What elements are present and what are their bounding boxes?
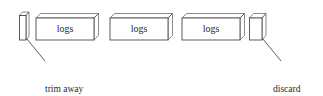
callout-discard-line-1: discard <box>273 84 300 95</box>
selvage-strip-group <box>20 12 30 40</box>
callout-discard-crease: discard crease <box>273 62 300 96</box>
leader-line-trim-away-selvage <box>27 39 46 62</box>
log-block-1-group: logs <box>36 14 99 41</box>
diagram-canvas: logs logs logs trim away selvage <box>0 0 323 96</box>
log-block-1-label: logs <box>57 23 74 34</box>
callout-trim-away-selvage: trim away selvage <box>45 62 83 96</box>
callout-trim-line-1: trim away <box>45 84 83 95</box>
log-block-2-group: logs <box>110 14 173 41</box>
log-block-3-group: logs <box>182 14 245 41</box>
leader-line-discard-crease <box>263 39 282 62</box>
discard-crease-group <box>250 14 267 41</box>
discard-crease-front-face <box>250 18 263 40</box>
selvage-strip-front-face <box>20 16 27 41</box>
log-block-2-label: logs <box>131 23 148 34</box>
log-block-3-label: logs <box>203 23 220 34</box>
